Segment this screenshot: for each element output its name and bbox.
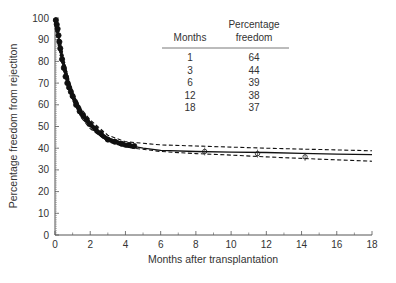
table-cell-months: 12	[184, 90, 196, 101]
x-tick-label: 2	[87, 239, 93, 250]
y-tick-label: 50	[38, 121, 50, 132]
y-tick-label: 20	[38, 186, 50, 197]
table-cell-months: 1	[187, 52, 193, 63]
table-cell-percentage: 44	[248, 65, 260, 76]
data-point	[57, 38, 61, 42]
table-header-months: Months	[174, 32, 207, 43]
y-axis-title: Percentage freedom from rejectiton	[7, 44, 19, 209]
chart: 0246810121416180102030405060708090100 Mo…	[0, 0, 396, 283]
x-tick-label: 6	[158, 239, 164, 250]
data-point	[60, 53, 64, 57]
series-line-lower-confidence-bound	[55, 18, 372, 161]
table-cell-percentage: 64	[248, 52, 260, 63]
table-cell-percentage: 37	[248, 102, 260, 113]
x-tick-label: 16	[331, 239, 343, 250]
x-tick-label: 14	[296, 239, 308, 250]
data-point	[55, 29, 59, 33]
x-tick-label: 8	[193, 239, 199, 250]
y-tick-label: 80	[38, 56, 50, 67]
table-cell-percentage: 39	[248, 77, 260, 88]
table-header-freedom: freedom	[236, 32, 273, 43]
x-tick-label: 0	[52, 239, 58, 250]
data-point	[55, 25, 59, 29]
y-tick-label: 90	[38, 34, 50, 45]
data-point	[54, 21, 58, 25]
y-tick-label: 40	[38, 143, 50, 154]
y-tick-label: 70	[38, 78, 50, 89]
data-point	[61, 60, 65, 64]
data-point	[131, 144, 135, 148]
table-header-percentage: Percentage	[228, 19, 280, 30]
y-tick-label: 60	[38, 99, 50, 110]
table-cell-months: 18	[184, 102, 196, 113]
y-tick-label: 30	[38, 164, 50, 175]
data-point	[56, 34, 60, 38]
y-tick-label: 100	[32, 13, 49, 24]
table-cell-months: 3	[187, 65, 193, 76]
table-cell-percentage: 38	[248, 90, 260, 101]
plot-area	[53, 18, 372, 162]
x-tick-label: 4	[123, 239, 129, 250]
data-point	[53, 18, 57, 22]
data-point	[59, 50, 63, 54]
y-tick-label: 10	[38, 208, 50, 219]
x-tick-label: 18	[366, 239, 378, 250]
data-point	[60, 57, 64, 61]
table-cell-months: 6	[187, 77, 193, 88]
x-axis-title: Months after transplantation	[148, 253, 278, 265]
inset-table: Months Percentage freedom 16434463912381…	[162, 19, 289, 113]
x-tick-label: 10	[226, 239, 238, 250]
data-point	[57, 43, 61, 47]
data-point	[58, 46, 62, 50]
x-tick-label: 12	[261, 239, 273, 250]
y-tick-label: 0	[43, 230, 49, 241]
table-body: 16434463912381837	[184, 52, 260, 113]
